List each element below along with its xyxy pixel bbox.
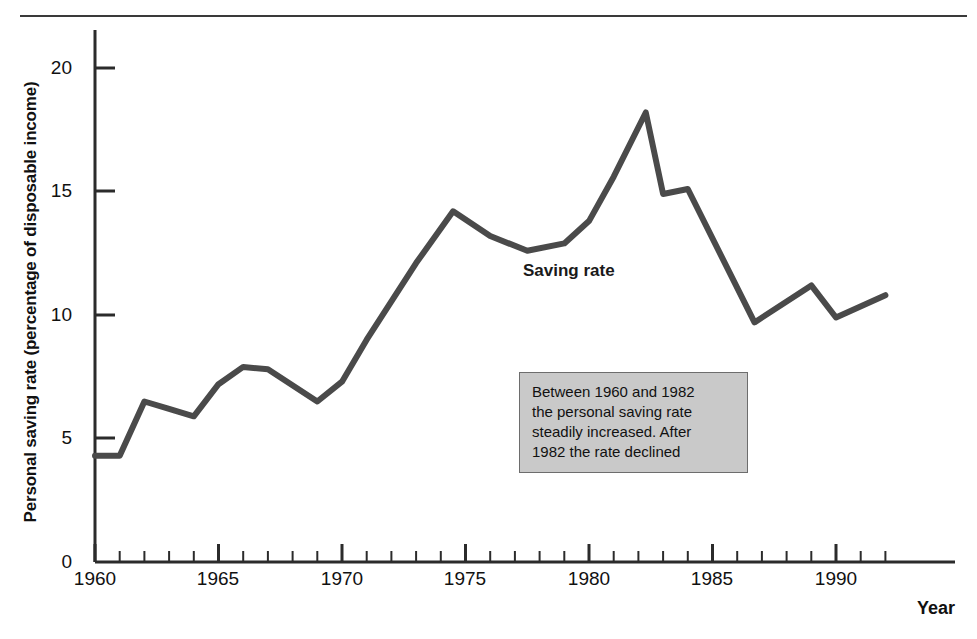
- chart-figure: Personal saving rate (percentage of disp…: [0, 0, 977, 639]
- y-axis-ticks: [95, 68, 115, 438]
- x-tick-label-1975: 1975: [425, 568, 505, 590]
- x-axis-title: Year: [917, 598, 955, 619]
- x-tick-label-1980: 1980: [549, 568, 629, 590]
- saving-rate-line: [95, 113, 885, 456]
- annotation-callout: Between 1960 and 1982 the personal savin…: [519, 372, 748, 473]
- plot-area: [0, 0, 977, 639]
- x-tick-label-1990: 1990: [796, 568, 876, 590]
- x-tick-label-1985: 1985: [672, 568, 752, 590]
- x-axis-ticks: [95, 544, 885, 562]
- x-tick-label-1965: 1965: [178, 568, 258, 590]
- series-inline-label: Saving rate: [523, 261, 615, 281]
- x-tick-label-1970: 1970: [302, 568, 382, 590]
- x-tick-label-1960: 1960: [55, 568, 135, 590]
- y-tick-label-10: 10: [28, 304, 72, 326]
- y-tick-label-5: 5: [28, 427, 72, 449]
- annotation-text: Between 1960 and 1982 the personal savin…: [532, 382, 735, 462]
- y-tick-label-15: 15: [28, 180, 72, 202]
- y-tick-label-20: 20: [28, 57, 72, 79]
